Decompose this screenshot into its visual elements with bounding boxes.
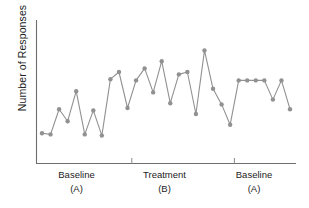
data-point <box>228 123 232 127</box>
data-point <box>245 78 249 82</box>
data-point <box>194 112 198 116</box>
data-point <box>262 78 266 82</box>
data-point <box>83 132 87 136</box>
phase-label-sub: (A) <box>36 182 117 196</box>
phase-label-title: Baseline <box>236 169 272 180</box>
data-point <box>288 107 292 111</box>
data-point <box>185 70 189 74</box>
data-point <box>219 102 223 106</box>
data-point <box>65 119 69 123</box>
data-point <box>271 97 275 101</box>
phase-label-sub: (B) <box>117 182 212 196</box>
data-point <box>142 66 146 70</box>
phase-label-baseline-a1: Baseline (A) <box>36 168 117 196</box>
data-point <box>125 106 129 110</box>
phase-divider-ticks <box>132 158 235 164</box>
phase-label-title: Baseline <box>58 169 94 180</box>
response-data-markers <box>40 48 292 138</box>
data-point <box>134 78 138 82</box>
response-data-line <box>42 50 290 135</box>
data-point <box>279 78 283 82</box>
data-point <box>160 59 164 63</box>
phase-label-title: Treatment <box>143 169 186 180</box>
data-point <box>117 70 121 74</box>
phase-label-baseline-a2: Baseline (A) <box>212 168 296 196</box>
data-point <box>168 101 172 105</box>
data-point <box>236 78 240 82</box>
data-point <box>202 48 206 52</box>
data-point <box>100 133 104 137</box>
data-point <box>74 89 78 93</box>
data-point <box>40 131 44 135</box>
data-point <box>211 87 215 91</box>
data-point <box>91 108 95 112</box>
phase-label-treatment-b: Treatment (B) <box>117 168 212 196</box>
chart-figure: Number of Responses Baseline (A) Treatme… <box>0 0 309 208</box>
data-point <box>108 77 112 81</box>
data-point <box>254 78 258 82</box>
data-point <box>177 72 181 76</box>
phase-label-sub: (A) <box>212 182 296 196</box>
data-point <box>151 90 155 94</box>
data-point <box>57 107 61 111</box>
data-point <box>48 132 52 136</box>
